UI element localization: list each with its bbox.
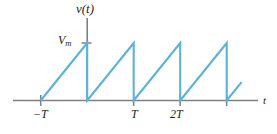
x-axis-label: t	[263, 95, 266, 106]
amplitude-label: Vm	[58, 34, 71, 47]
tick-label-T: T	[131, 108, 138, 120]
amplitude-label-subscript: m	[65, 38, 71, 48]
tick-label-neg-T: −T	[33, 108, 48, 120]
waveform-sawtooth	[41, 43, 242, 101]
tick-label-2T: 2T	[170, 108, 183, 120]
sawtooth-waveform-figure: v(t) t Vm −T T 2T	[0, 0, 277, 134]
y-axis-label: v(t)	[76, 2, 94, 15]
